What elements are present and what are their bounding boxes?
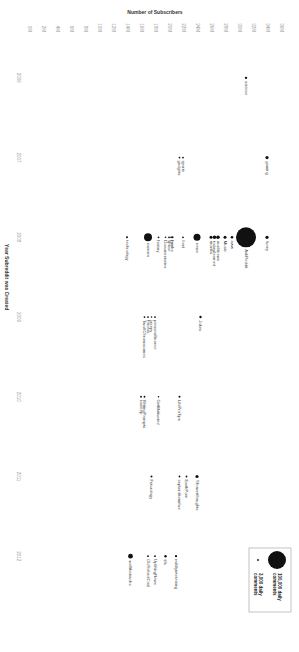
- point-label: TwoXChromosomes: [142, 320, 147, 358]
- x-tick-label: 2010: [16, 392, 21, 403]
- data-point: OldSchoolCool: [146, 555, 151, 587]
- y-axis-title: Number of Subscribers: [127, 9, 183, 15]
- point-label: gaming: [265, 161, 270, 175]
- y-tick-label: 10M: [97, 23, 102, 32]
- point-label: Jokes: [198, 320, 203, 331]
- bubble-marker-icon: [179, 157, 181, 159]
- bubble-marker-icon: [140, 396, 142, 398]
- data-point: gaming: [265, 156, 270, 176]
- legend-label-small: 3,000 daily: [258, 573, 263, 596]
- data-point: technology: [125, 236, 130, 261]
- point-label: memes: [146, 243, 151, 257]
- bubble-marker-icon: [179, 396, 181, 398]
- y-axis-ticks: 0M2M4M6M8M10M12M14M16M18M20M22M24M26M28M…: [27, 23, 284, 32]
- bubble-marker-icon: [144, 396, 146, 398]
- bubble-marker-icon: [151, 475, 153, 477]
- data-point: aww: [230, 236, 235, 250]
- point-label: history: [156, 240, 161, 253]
- bubble-marker-icon: [170, 236, 172, 238]
- data-point: Jokes: [198, 316, 203, 331]
- bubble-marker-icon: [126, 236, 128, 238]
- data-point: Showerthoughts: [195, 475, 200, 510]
- point-label: gadgets: [177, 160, 182, 175]
- y-tick-label: 28M: [223, 23, 228, 32]
- point-label: Showerthoughts: [195, 480, 200, 510]
- bubble-marker-icon: [265, 236, 268, 239]
- bubble-chart: 0M2M4M6M8M10M12M14M16M18M20M22M24M26M28M…: [0, 0, 299, 652]
- x-tick-label: 2006: [16, 73, 21, 84]
- data-point: UpliftingNews: [153, 555, 158, 584]
- bubble-marker-icon: [144, 316, 146, 318]
- bubble-marker-icon: [164, 555, 166, 557]
- data-point: LifeProTips: [177, 396, 182, 421]
- bubble-marker-icon: [158, 236, 160, 238]
- legend-label-small-line2: comments: [253, 573, 258, 596]
- bubble-marker-icon: [154, 555, 156, 557]
- bubble-marker-icon: [210, 236, 213, 239]
- y-tick-label: 24M: [195, 23, 200, 32]
- data-point: AskReddit: [236, 227, 256, 269]
- point-label: Futurology: [149, 479, 154, 500]
- data-point: mildlyinteresting: [174, 555, 179, 590]
- point-label: LifeProTips: [177, 400, 182, 421]
- data-point: gadgets: [177, 157, 182, 176]
- legend-small-bubble-icon: [257, 559, 259, 561]
- point-label: tifu: [163, 559, 168, 565]
- data-point: memes: [144, 233, 152, 257]
- point-label: aww: [230, 241, 235, 250]
- data-point: nosleep: [139, 396, 144, 415]
- point-label: nosleep: [139, 400, 144, 415]
- bubble-marker-icon: [168, 236, 170, 238]
- bubble-marker-icon: [158, 396, 160, 398]
- point-label: science: [244, 81, 249, 96]
- data-point: explainlikeimfive: [177, 476, 182, 511]
- point-label: GetMotivated: [156, 400, 161, 426]
- y-tick-label: 0M: [27, 26, 32, 33]
- point-label: OldSchoolCool: [146, 559, 151, 587]
- y-tick-label: 34M: [265, 23, 270, 32]
- data-point: history: [156, 236, 161, 253]
- y-tick-label: 32M: [251, 23, 256, 32]
- point-label: Documentaries: [163, 240, 168, 268]
- data-point: science: [244, 77, 249, 96]
- data-point: GetMotivated: [156, 396, 161, 425]
- bubble-marker-icon: [147, 316, 149, 318]
- bubble-marker-icon: [236, 227, 256, 247]
- bubble-marker-icon: [154, 316, 156, 318]
- data-point: Futurology: [149, 475, 154, 500]
- data-point: creepy: [149, 316, 154, 333]
- point-label: UpliftingNews: [153, 559, 158, 585]
- bubble-marker-icon: [128, 554, 133, 559]
- point-label: technology: [125, 240, 130, 261]
- point-label: movies: [209, 241, 214, 254]
- bubble-marker-icon: [231, 236, 234, 239]
- data-point: news: [194, 234, 201, 253]
- point-label: food: [181, 240, 186, 249]
- y-tick-label: 14M: [125, 23, 130, 32]
- y-tick-label: 20M: [167, 23, 172, 32]
- bubble-marker-icon: [175, 555, 177, 557]
- bubble-marker-icon: [265, 156, 268, 159]
- y-tick-label: 18M: [153, 23, 158, 32]
- chart-frame: 0M2M4M6M8M10M12M14M16M18M20M22M24M26M28M…: [0, 0, 299, 652]
- y-tick-label: 30M: [237, 23, 242, 32]
- x-tick-label: 2007: [16, 153, 21, 164]
- point-label: creepy: [149, 320, 154, 333]
- x-axis-ticks: 2006200720082009201020112012: [16, 73, 21, 562]
- point-label: wellthatsucks: [128, 561, 133, 586]
- x-tick-label: 2008: [16, 232, 21, 243]
- y-tick-label: 26M: [209, 23, 214, 32]
- y-tick-label: 6M: [69, 26, 74, 33]
- point-label: EarthPorn: [184, 479, 189, 499]
- point-label: AskReddit: [244, 249, 249, 269]
- x-tick-label: 2011: [16, 472, 21, 482]
- bubble-marker-icon: [245, 77, 247, 79]
- y-tick-label: 12M: [111, 23, 116, 32]
- point-label: funny: [265, 241, 270, 252]
- bubble-marker-icon: [213, 236, 217, 240]
- legend: 100,000 daily comments 3,000 daily comme…: [249, 548, 291, 612]
- bubble-marker-icon: [151, 316, 153, 318]
- x-tick-label: 2009: [16, 312, 21, 323]
- data-point: wellthatsucks: [128, 554, 133, 586]
- bubble-marker-icon: [182, 157, 184, 159]
